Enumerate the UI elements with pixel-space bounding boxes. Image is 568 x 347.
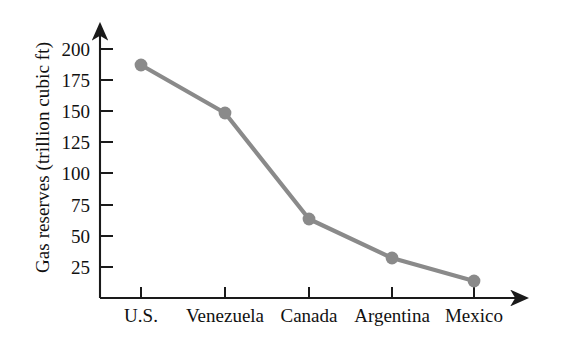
data-line [141, 65, 474, 281]
data-point-venezuela [219, 107, 232, 120]
plot-area [0, 0, 568, 347]
x-tick-marks [141, 287, 474, 298]
data-point-canada [303, 213, 316, 226]
data-point-us [135, 59, 148, 72]
gas-reserves-line-chart: Gas reserves (trillion cubic ft) 200 175… [0, 0, 568, 347]
y-tick-marks [100, 49, 113, 267]
data-point-argentina [386, 252, 399, 265]
data-point-mexico [468, 275, 481, 288]
